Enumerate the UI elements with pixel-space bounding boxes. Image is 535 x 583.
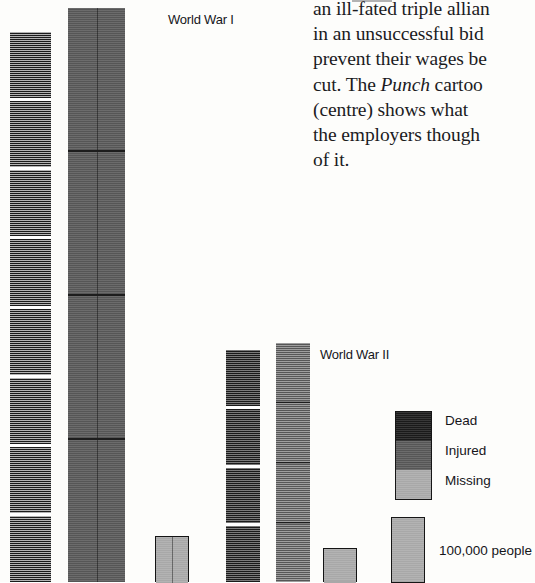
scale-key-swatch bbox=[391, 517, 425, 583]
legend-swatch-injured bbox=[396, 441, 431, 470]
bar-block bbox=[276, 464, 310, 522]
bar-block bbox=[10, 32, 51, 98]
bar-block bbox=[10, 101, 51, 167]
bar-block bbox=[226, 350, 260, 406]
bar-block bbox=[276, 343, 310, 401]
italic-publication-name: Punch bbox=[381, 74, 430, 95]
bar-block bbox=[10, 516, 51, 582]
bar-block bbox=[226, 409, 260, 465]
bar-block bbox=[10, 309, 51, 375]
body-line: (centre) shows what bbox=[313, 97, 535, 122]
body-line: of it. bbox=[313, 147, 535, 172]
bar-ww1-missing bbox=[155, 536, 189, 582]
bar-ww2-dead bbox=[226, 350, 260, 582]
bar-block bbox=[226, 468, 260, 524]
bar-block bbox=[276, 524, 310, 582]
bar-block bbox=[10, 378, 51, 444]
legend-label-injured: Injured bbox=[445, 443, 486, 458]
bar-block bbox=[10, 447, 51, 513]
body-line-suffix: cartoo bbox=[430, 74, 483, 95]
bar-block bbox=[10, 239, 51, 305]
bar-block bbox=[10, 170, 51, 236]
body-line: prevent their wages be bbox=[313, 46, 535, 71]
legend-swatch-missing bbox=[396, 470, 431, 499]
body-line: the employers though bbox=[313, 122, 535, 147]
bar-block bbox=[226, 526, 260, 582]
bar-ww2-missing bbox=[323, 548, 357, 582]
body-line: in an unsuccessful bid bbox=[313, 21, 535, 46]
legend-swatch-stack bbox=[395, 411, 432, 500]
bar-block bbox=[68, 8, 125, 150]
legend-label-dead: Dead bbox=[445, 413, 477, 428]
chart-group-label-ww1: World War I bbox=[168, 12, 234, 27]
body-line-with-italic: cut. The Punch cartoo bbox=[313, 72, 535, 97]
article-body-text: an ill-fated triple allian in an unsucce… bbox=[313, 0, 535, 172]
bar-block bbox=[68, 152, 125, 294]
body-line-prefix: cut. The bbox=[313, 74, 381, 95]
legend-label-missing: Missing bbox=[445, 473, 491, 488]
bar-ww2-injured bbox=[276, 343, 310, 582]
chart-group-label-ww2: World War II bbox=[320, 347, 389, 362]
bar-block bbox=[276, 403, 310, 461]
bar-ww1-dead bbox=[10, 32, 51, 582]
bar-ww1-injured bbox=[68, 8, 125, 582]
legend-swatch-dead bbox=[396, 412, 431, 441]
bar-block bbox=[156, 537, 188, 583]
bar-block bbox=[324, 549, 356, 583]
bar-block bbox=[68, 440, 125, 582]
bar-block bbox=[68, 296, 125, 438]
body-line: an ill-fated triple allian bbox=[313, 0, 535, 21]
scale-key-label: 100,000 people bbox=[439, 543, 532, 558]
